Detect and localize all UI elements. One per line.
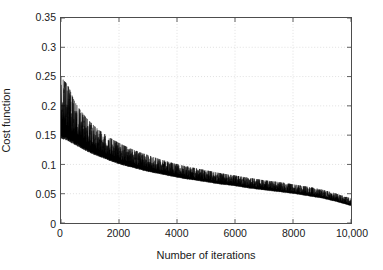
x-axis-tick-labels: 0200040006000800010,000 [0,0,383,270]
x-tick-label: 4000 [165,228,188,239]
x-tick-label: 8000 [282,228,305,239]
y-axis-label: Cost function [0,17,14,224]
x-tick-label: 10,000 [336,228,368,239]
figure-canvas: 00.050.10.150.20.250.30.35 0200040006000… [0,0,383,270]
x-tick-label: 2000 [107,228,130,239]
x-axis-label: Number of iterations [60,249,352,261]
x-tick-label: 6000 [224,228,247,239]
x-tick-label: 0 [57,228,63,239]
